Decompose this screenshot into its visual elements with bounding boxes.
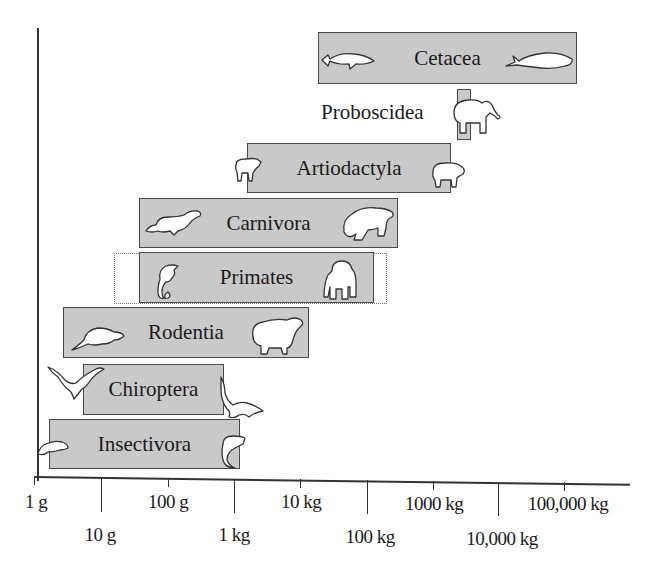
tick-1kg: [234, 479, 235, 513]
tick-label-100kg: 100 kg: [345, 527, 394, 546]
tick-10kg: [300, 479, 301, 488]
y-axis: [37, 28, 39, 481]
tick-label-1kg: 1 kg: [218, 525, 249, 544]
weasel-icon: [144, 207, 204, 237]
bar-label-rodentia: Rodentia: [148, 322, 224, 343]
tick-label-100000kg: 100,000 kg: [528, 494, 609, 513]
tick-label-10000kg: 10,000 kg: [466, 529, 538, 548]
bar-label-artiodactyla: Artiodactyla: [297, 158, 402, 179]
tick-label-10kg: 10 kg: [281, 492, 321, 511]
tick-100kg: [367, 480, 368, 514]
beaver-icon: [70, 322, 126, 352]
bar-label-cetacea: Cetacea: [414, 48, 480, 69]
bar-label-chiroptera: Chiroptera: [109, 379, 199, 400]
tick-1000kg: [433, 481, 434, 490]
capybara-icon: [249, 314, 305, 358]
tenrec-icon: [217, 432, 247, 470]
hippo-icon: [429, 158, 467, 190]
tick-label-10g: 10 g: [84, 525, 115, 544]
dolphin-icon: [320, 48, 376, 72]
fruit-bat-icon: [219, 375, 267, 421]
bar-label-insectivora: Insectivora: [98, 434, 191, 455]
tick-10000kg: [498, 482, 499, 516]
tick-100g: [168, 478, 169, 487]
bar-artiodactyla: Artiodactyla: [247, 143, 451, 193]
mouse-lemur-icon: [152, 260, 182, 302]
tick-10g: [101, 478, 102, 512]
body-mass-range-chart: 1 g 10 g 100 g 1 kg 10 kg 100 kg 1000 kg…: [0, 0, 649, 574]
tick-label-1g: 1 g: [25, 492, 47, 511]
elephant-icon: [450, 95, 502, 135]
small-deer-icon: [233, 155, 263, 183]
gorilla-icon: [322, 257, 358, 301]
label-proboscidea: Proboscidea: [321, 102, 424, 123]
x-axis: [34, 476, 630, 485]
bar-label-carnivora: Carnivora: [227, 213, 311, 234]
tick-100000kg: [564, 482, 565, 491]
small-bat-icon: [46, 363, 106, 403]
shrew-icon: [36, 436, 70, 458]
tick-label-1000kg: 1000 kg: [405, 494, 463, 513]
tick-label-100g: 100 g: [148, 492, 188, 511]
bar-insectivora: Insectivora: [49, 419, 240, 469]
tick-1g: [34, 477, 35, 485]
polar-bear-icon: [340, 202, 396, 244]
bar-label-primates: Primates: [220, 267, 294, 288]
whale-icon: [505, 47, 575, 75]
